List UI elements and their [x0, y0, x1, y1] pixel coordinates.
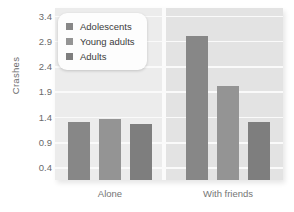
bar	[217, 86, 239, 180]
legend-swatch-icon	[66, 38, 73, 45]
panel-divider	[162, 8, 165, 180]
y-axis-tick-label: 1.4	[26, 111, 52, 122]
chart-legend: AdolescentsYoung adultsAdults	[58, 13, 147, 70]
y-axis-tick-labels: 0.40.91.41.92.42.93.4	[26, 8, 52, 180]
gridline	[55, 117, 283, 119]
gridline	[55, 91, 283, 93]
bar	[130, 124, 152, 180]
x-axis-tick-label: With friends	[203, 188, 253, 199]
legend-label: Young adults	[80, 36, 135, 47]
bar-chart-figure: Crashes 0.40.91.41.92.42.93.4 Adolescent…	[0, 0, 294, 212]
y-axis-tick-label: 0.4	[26, 162, 52, 173]
legend-label: Adolescents	[80, 21, 132, 32]
bar	[99, 119, 121, 180]
y-axis-tick-label: 0.9	[26, 137, 52, 148]
x-axis-tick-labels: AloneWith friends	[55, 188, 283, 202]
y-axis-tick-label: 1.9	[26, 86, 52, 97]
x-axis-tick-label: Alone	[98, 188, 122, 199]
y-axis-tick-label: 2.9	[26, 35, 52, 46]
legend-item: Adolescents	[66, 19, 135, 34]
legend-swatch-icon	[66, 53, 73, 60]
legend-item: Adults	[66, 49, 135, 64]
legend-item: Young adults	[66, 34, 135, 49]
bar	[186, 36, 208, 180]
bar	[248, 122, 270, 180]
y-axis-tick-label: 2.4	[26, 61, 52, 72]
bar	[68, 122, 90, 180]
legend-swatch-icon	[66, 23, 73, 30]
y-axis-tick-label: 3.4	[26, 10, 52, 21]
legend-label: Adults	[80, 51, 106, 62]
y-axis-title: Crashes	[10, 41, 21, 111]
